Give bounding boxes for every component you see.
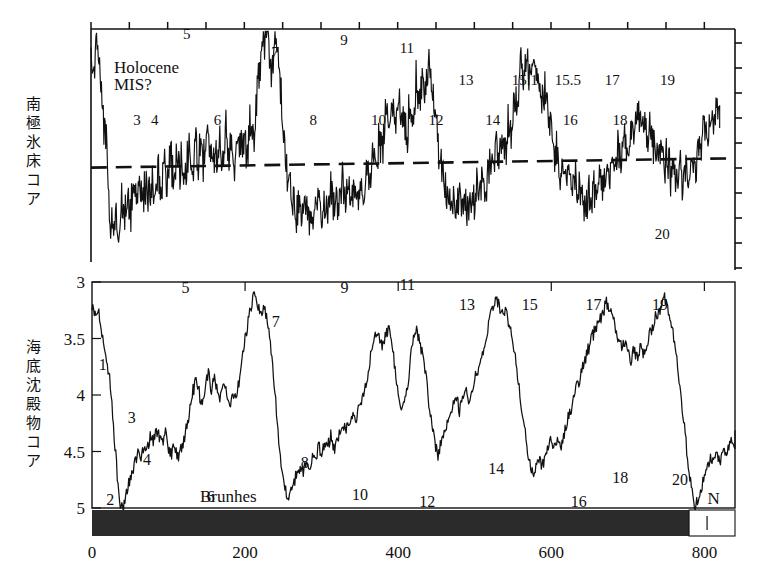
sed-mis-label-14: 14 xyxy=(488,460,504,477)
sed-mis-label-13: 13 xyxy=(459,296,475,313)
sed-mis-label-15: 15 xyxy=(522,296,538,313)
sed-mis-label-10: 10 xyxy=(352,486,368,503)
sed-mis-label-19: 19 xyxy=(652,296,668,313)
paleoclimate-plot: 5346789101112131415.115.51617181920Holoc… xyxy=(0,0,776,582)
sed-mis-label-8: 8 xyxy=(301,454,309,471)
sediment-core-axis-label: 海底沈殿物コア xyxy=(22,338,44,471)
x-tick-label-4: 800 xyxy=(692,543,718,562)
mis-label-6: 6 xyxy=(214,112,222,128)
mis-label-7: 7 xyxy=(271,44,279,60)
y-tick-label-2: 4 xyxy=(77,386,86,405)
sed-mis-label-7: 7 xyxy=(272,313,280,330)
mis-label-20: 20 xyxy=(655,226,670,242)
y-tick-label-4: 5 xyxy=(77,499,86,518)
polarity-n-label: N xyxy=(707,489,719,508)
ice-core-panel: 5346789101112131415.115.51617181920Holoc… xyxy=(91,22,742,270)
mis-label-11: 11 xyxy=(400,40,414,56)
polarity-bar-normal xyxy=(92,510,689,536)
x-tick-label-0: 0 xyxy=(88,543,97,562)
mis-label-18: 18 xyxy=(613,112,628,128)
sed-mis-label-2: 2 xyxy=(106,491,114,508)
sed-mis-label-18: 18 xyxy=(612,469,628,486)
sed-mis-label-20: 20 xyxy=(672,471,688,488)
mis-label-12: 12 xyxy=(429,112,444,128)
mis-label-16: 16 xyxy=(563,112,579,128)
mis-label-15-5: 15.5 xyxy=(555,72,581,88)
mis-label-19: 19 xyxy=(660,72,675,88)
ice-core-axis-label: 南極氷床コア xyxy=(22,95,44,209)
mis-label-3: 3 xyxy=(133,112,141,128)
mis-label-13: 13 xyxy=(458,72,473,88)
sed-mis-label-17: 17 xyxy=(585,296,601,313)
sediment-core-panel: 33.544.551234567891011121314151617181920… xyxy=(64,273,735,562)
mis-label-10: 10 xyxy=(371,112,386,128)
figure-root: 南極氷床コア 海底沈殿物コア 5346789101112131415.115.5… xyxy=(0,0,776,582)
sed-mis-label-11: 11 xyxy=(400,276,415,293)
brunhes-label: Brunhes xyxy=(200,487,257,506)
y-tick-label-1: 3.5 xyxy=(64,330,85,349)
mis-label-8: 8 xyxy=(310,112,318,128)
mis-label-14: 14 xyxy=(485,112,501,128)
x-tick-label-3: 600 xyxy=(539,543,565,562)
sed-mis-label-4: 4 xyxy=(143,451,151,468)
sed-mis-label-9: 9 xyxy=(341,279,349,296)
x-tick-label-1: 200 xyxy=(232,543,258,562)
sed-mis-label-1: 1 xyxy=(99,356,107,373)
mis-label-15-1: 15.1 xyxy=(512,72,538,88)
mis-question-annotation: MIS? xyxy=(114,75,152,94)
sed-mis-label-16: 16 xyxy=(571,493,587,510)
x-tick-label-2: 400 xyxy=(385,543,411,562)
y-tick-label-3: 4.5 xyxy=(64,443,85,462)
sed-mis-label-12: 12 xyxy=(419,493,435,510)
y-tick-label-0: 3 xyxy=(77,273,86,292)
mis-label-4: 4 xyxy=(151,112,159,128)
polarity-bar-reversed xyxy=(689,510,735,536)
sed-mis-label-3: 3 xyxy=(128,409,136,426)
mis-label-9: 9 xyxy=(340,32,348,48)
sed-mis-label-5: 5 xyxy=(181,279,189,296)
mis-label-17: 17 xyxy=(605,72,621,88)
mis-label-5: 5 xyxy=(183,26,191,42)
